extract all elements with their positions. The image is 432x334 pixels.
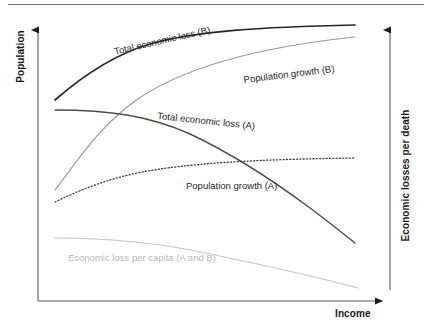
chart-figure: Population Economic losses per death Inc… — [0, 0, 432, 334]
curve-total-economic-loss-b — [55, 25, 355, 100]
chart-plot-area — [0, 0, 432, 334]
curve-total-economic-loss-a — [55, 110, 355, 243]
x-axis-title: Income — [335, 308, 395, 319]
y-axis-right-title: Economic losses per death — [400, 106, 411, 246]
curve-label-population-growth-a: Population growth (A) — [186, 180, 277, 191]
curve-label-economic-loss-per-capita: Economic loss per capita (A and B) — [68, 252, 216, 263]
curve-economic-loss-per-capita — [55, 238, 358, 288]
y-axis-left-title: Population — [15, 21, 26, 93]
curve-population-growth-b — [55, 37, 355, 190]
